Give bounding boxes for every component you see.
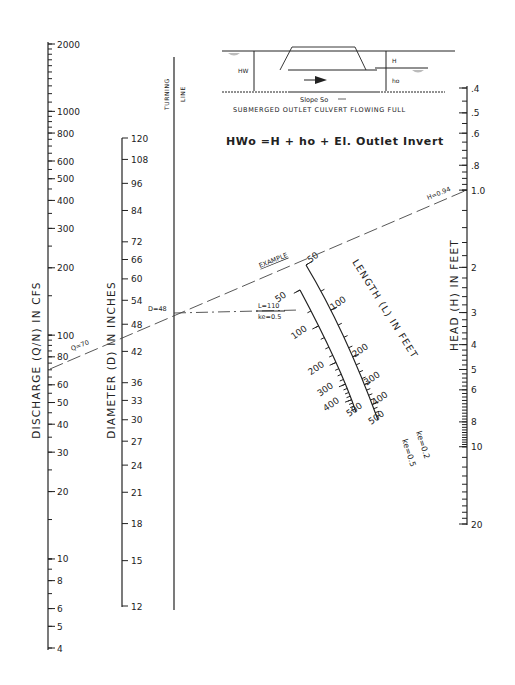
tick-label: 300 [362,369,382,387]
head-scale: .4.5.6.81.02345681020 HEAD (H) IN FEET [448,84,486,530]
diameter-axis-label: DIAMETER (D) IN INCHES [105,281,117,439]
discharge-axis-label: DISCHARGE (Q/N) IN CFS [30,281,42,438]
tick-label: 60 [131,274,143,284]
tick-label: .8 [471,161,480,171]
tick-label: 300 [315,380,335,398]
tick-label: 400 [57,196,74,206]
tick-label: 50 [305,250,320,265]
culvert-inset: HW H ho Slope So SUBMERGED OUTLET CULVER… [222,47,455,148]
tick-label: 96 [131,179,143,189]
tick-label: 500 [344,400,364,418]
inset-hw-label: HW [238,67,249,74]
tick-label: 10 [471,442,483,452]
tick-label: 2 [471,263,477,273]
example-label: EXAMPLE [258,251,289,270]
example-l-label: L=110 [258,302,279,310]
inset-caption: SUBMERGED OUTLET CULVERT FLOWING FULL [233,106,406,114]
inset-slope-label: Slope So [300,96,328,104]
turning-line-label-2: LINE [179,86,186,102]
tick-label: 8 [471,417,477,427]
tick-label: .6 [471,129,480,139]
tick-label: 12 [131,602,142,612]
tick-label: 30 [57,448,69,458]
tick-label: 400 [321,395,341,413]
tick-label: 300 [57,224,74,234]
inset-h-label: H [392,57,397,64]
tick-label: 108 [131,155,148,165]
tick-label: 50 [57,398,69,408]
tick-label: .5 [471,108,480,118]
tick-label: 6 [57,604,63,614]
head-axis-label: HEAD (H) IN FEET [448,239,460,351]
tick-label: 8 [57,576,63,586]
tick-label: 21 [131,488,142,498]
tick-label: 48 [131,320,143,330]
inset-equation: HWo =H + ho + El. Outlet Invert [226,135,444,148]
tick-label: 10 [57,554,69,564]
tick-label: 27 [131,437,142,447]
tick-label: 200 [306,359,326,377]
example-d-label: D=48 [148,305,167,313]
tick-label: 400 [370,389,390,407]
tick-label: 3 [471,308,477,318]
tick-label: 1000 [57,107,80,117]
tick-label: 100 [328,294,348,312]
tick-label: 33 [131,396,142,406]
length-scale-ke02: 50100200300400500 LENGTH (L) IN FEET ke=… [305,250,431,460]
tick-label: 800 [57,129,74,139]
tick-label: 72 [131,237,142,247]
tick-label: 66 [131,255,143,265]
tick-label: 600 [57,157,74,167]
ke-05-label: ke=0.5 [400,438,417,468]
tick-label: 18 [131,519,143,529]
tick-label: 5 [57,622,63,632]
tick-label: 30 [131,415,143,425]
tick-label: 20 [471,520,483,530]
example-h-label: H=0.94 [426,185,452,202]
diameter-scale: 1201089684726660544842363330272421181512… [105,134,148,612]
ke-02-label: ke=0.2 [414,430,431,460]
inset-ho-label: ho [392,77,400,84]
tick-label: 42 [131,347,142,357]
tick-label: 15 [131,556,142,566]
tick-label: 54 [131,296,143,306]
tick-label: 2000 [57,40,80,50]
tick-label: 84 [131,206,143,216]
tick-label: 100 [57,331,74,341]
tick-label: 500 [57,174,74,184]
tick-label: 5 [471,365,477,375]
tick-label: 200 [57,263,74,273]
tick-label: 24 [131,461,143,471]
tick-label: 36 [131,378,143,388]
tick-label: 4 [57,644,63,654]
tick-label: 4 [471,340,477,350]
culvert-nomograph: 2000100080060050040030020010080605040302… [0,0,515,685]
tick-label: 40 [57,420,69,430]
tick-label: 60 [57,380,69,390]
tick-label: 200 [350,341,370,359]
tick-label: 20 [57,487,69,497]
tick-label: 500 [366,408,386,426]
turning-line-label-1: TURNING [163,78,170,111]
tick-label: 80 [57,352,69,362]
tick-label: 100 [289,323,309,341]
tick-label: 120 [131,134,148,144]
tick-label: .4 [471,84,480,94]
turning-line: TURNING LINE [163,57,186,610]
tick-label: 6 [471,385,477,395]
tick-label: 1.0 [471,186,486,196]
example-ke-label: ke=0.5 [258,313,281,321]
